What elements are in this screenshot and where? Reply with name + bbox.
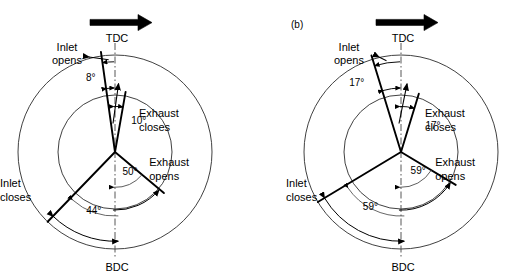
inlet-closes-angle-label: 59° xyxy=(363,201,378,212)
inlet-opens-angle-label: 17° xyxy=(349,77,364,88)
bdc-label: BDC xyxy=(105,261,128,273)
inlet-opens-line xyxy=(101,52,115,152)
inlet-closes-label-line2: closes xyxy=(0,191,32,203)
inlet-closes-label-line1: Inlet xyxy=(286,177,307,189)
inlet-closes-line xyxy=(318,152,401,202)
exhaust-closes-label-line1: Exhaust xyxy=(425,107,465,119)
timing-panel-a: TDCBDC8°10°50°44°InletopensExhaustcloses… xyxy=(0,15,212,274)
exhaust-opens-label-line2: opens xyxy=(435,170,465,182)
inlet-opens-angle-arc-2 xyxy=(383,88,400,91)
bdc-label: BDC xyxy=(391,261,414,273)
exhaust-opens-label-line1: Exhaust xyxy=(149,156,189,168)
panel-tag: (b) xyxy=(291,19,303,30)
inlet-closes-label-line1: Inlet xyxy=(0,177,21,189)
rotation-arrow xyxy=(376,15,438,31)
inlet-opens-angle-label: 8° xyxy=(86,72,96,83)
inlet-opens-line xyxy=(371,55,401,152)
tdc-label: TDC xyxy=(106,32,129,44)
exhaust-opens-angle-label: 50° xyxy=(122,166,137,177)
inlet-opens-label-line1: Inlet xyxy=(339,41,360,53)
timing-panel-b: (b)TDCBDC17°17°59°59°InletopensExhaustcl… xyxy=(286,15,498,274)
inlet-closes-angle-label: 44° xyxy=(86,205,101,216)
inlet-closes-line xyxy=(48,152,115,222)
inlet-opens-angle-arc xyxy=(375,62,400,66)
exhaust-closes-label-line2: closes xyxy=(139,121,171,133)
exhaust-opens-label-line1: Exhaust xyxy=(435,156,475,168)
inlet-opens-label-line1: Inlet xyxy=(57,41,78,53)
inlet-closes-label-line2: closes xyxy=(286,191,318,203)
inlet-opens-leader xyxy=(379,57,386,61)
exhaust-opens-angle-label: 59° xyxy=(411,165,426,176)
exhaust-opens-angle-arc-2 xyxy=(113,190,159,210)
inlet-opens-angle-arc xyxy=(102,62,114,63)
inlet-opens-leader xyxy=(89,57,109,60)
exhaust-closes-label-line1: Exhaust xyxy=(139,107,179,119)
inlet-closes-angle-arc xyxy=(53,216,118,241)
tdc-label: TDC xyxy=(392,32,415,44)
rotation-arrow xyxy=(90,15,152,31)
exhaust-opens-label-line2: opens xyxy=(149,170,179,182)
exhaust-closes-pointer xyxy=(113,84,119,124)
inlet-opens-label-line2: opens xyxy=(52,54,82,66)
exhaust-closes-pointer xyxy=(399,84,407,124)
exhaust-closes-label-line2: closes xyxy=(425,121,457,133)
valve-timing-figure: TDCBDC8°10°50°44°InletopensExhaustcloses… xyxy=(0,0,511,280)
inlet-opens-label-line2: opens xyxy=(334,54,364,66)
diagram-canvas: TDCBDC8°10°50°44°InletopensExhaustcloses… xyxy=(0,0,511,280)
inlet-opens-angle-arc-2 xyxy=(106,88,114,89)
